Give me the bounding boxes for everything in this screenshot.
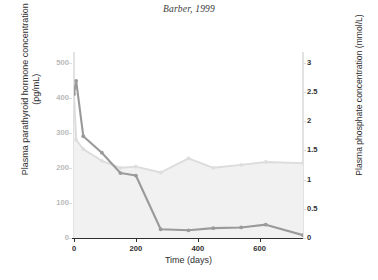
x-axis-title: Time (days) (74, 255, 303, 265)
data-point (211, 166, 215, 170)
plot-area (74, 52, 303, 238)
phosphate-area-fill (74, 94, 303, 238)
x-axis-tickmark (198, 239, 199, 242)
y-axis-right-tickmark (303, 63, 306, 64)
y-axis-left-tick-label: 100 (56, 199, 69, 207)
y-axis-right-tick-label: 3 (307, 59, 311, 67)
data-point (239, 226, 243, 230)
y-axis-right-tick-label: 2.5 (307, 88, 318, 96)
x-axis-tick-label: 0 (56, 245, 92, 253)
y-axis-left-tick-label: 400 (56, 94, 69, 102)
y-axis-left-tickmark (69, 168, 72, 169)
y-axis-right-tick-label: 0 (307, 234, 311, 242)
chart-figure: Barber, 1999 0100200300400500 00.511.522… (0, 0, 378, 280)
data-point (264, 160, 268, 164)
y-axis-left-title-line2: (pg/mL) (31, 74, 41, 105)
data-point (159, 227, 163, 231)
x-axis-tickmark (74, 239, 75, 242)
y-axis-left-tick-label: 500 (56, 59, 69, 67)
x-axis-tickmark (260, 239, 261, 242)
data-point (187, 157, 191, 161)
data-point (74, 79, 78, 83)
data-point (100, 151, 104, 155)
y-axis-right-tickmark (303, 209, 306, 210)
y-axis-left-tickmark (69, 63, 72, 64)
data-point (159, 171, 163, 175)
y-axis-right-tickmark (303, 180, 306, 181)
y-axis-left-title-line1: Plasma parathyroid hormone concentration (20, 3, 30, 175)
y-axis-right-tick-label: 0.5 (307, 205, 318, 213)
data-point (119, 166, 123, 170)
data-point (134, 174, 138, 178)
y-axis-left-tickmark (69, 98, 72, 99)
y-axis-right-tickmark (303, 92, 306, 93)
y-axis-right-tick-label: 1.5 (307, 146, 318, 154)
y-axis-left-title: Plasma parathyroid hormone concentration… (20, 0, 43, 184)
series-canvas (74, 52, 303, 238)
data-point (81, 134, 85, 138)
data-point (239, 163, 243, 167)
y-axis-left-tickmark (69, 238, 72, 239)
y-axis-left-tickmark (69, 203, 72, 204)
y-axis-right-tick-label: 2 (307, 117, 311, 125)
data-point (100, 159, 104, 163)
x-axis-tick-label: 200 (118, 245, 154, 253)
x-axis-tickmark (136, 239, 137, 242)
chart-title: Barber, 1999 (0, 4, 378, 14)
y-axis-left-tick-label: 200 (56, 164, 69, 172)
x-axis-tick-label: 600 (242, 245, 278, 253)
x-axis-tick-label: 400 (180, 245, 216, 253)
data-point (264, 223, 268, 227)
y-axis-right-tick-label: 1 (307, 176, 311, 184)
y-axis-right-tickmark (303, 238, 306, 239)
y-axis-left-tickmark (69, 133, 72, 134)
data-point (119, 171, 123, 175)
data-point (211, 226, 215, 230)
data-point (187, 228, 191, 232)
y-axis-right-tickmark (303, 150, 306, 151)
data-point (134, 165, 138, 169)
data-point (81, 147, 85, 151)
y-axis-right-title: Plasma phosphate concentration (mmol/L) (354, 0, 364, 190)
data-point (74, 138, 78, 142)
y-axis-right-tickmark (303, 121, 306, 122)
y-axis-left-tick-label: 300 (56, 129, 69, 137)
